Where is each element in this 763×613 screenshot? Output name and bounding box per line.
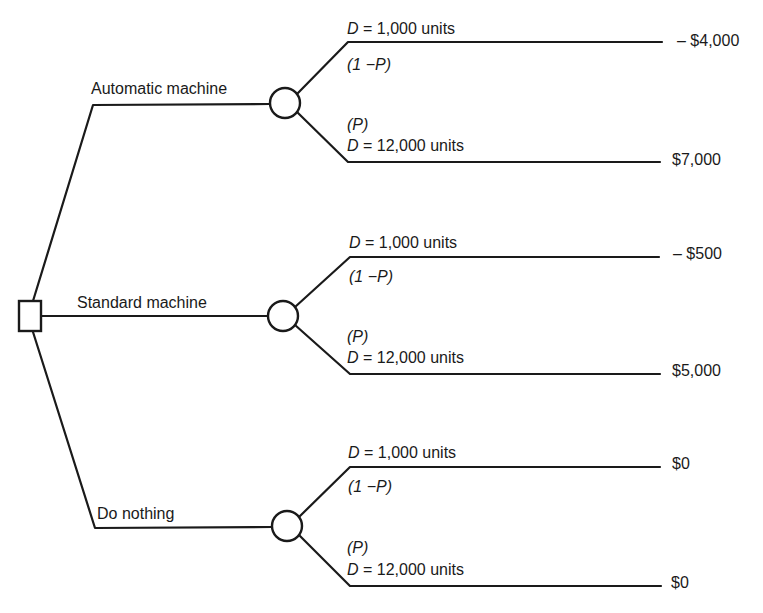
- payoff-label: – $500: [673, 245, 722, 263]
- demand-value: = 12,000 units: [363, 349, 464, 366]
- probability-label: (P): [347, 328, 368, 346]
- payoff-label: $5,000: [672, 362, 721, 380]
- demand-value: = 1,000 units: [363, 20, 455, 37]
- probability-label: (1 −P): [348, 478, 392, 496]
- outcome-demand-label: D = 1,000 units: [347, 20, 455, 38]
- demand-variable: D: [347, 561, 359, 578]
- demand-variable: D: [347, 349, 359, 366]
- payoff-label: – $4,000: [677, 32, 739, 50]
- chance-node-automatic-machine: [270, 88, 300, 118]
- label-automatic-machine: Automatic machine: [91, 80, 227, 98]
- chance-node-do-nothing: [272, 511, 302, 541]
- decision-node: [19, 301, 41, 331]
- probability-label: (P): [347, 539, 368, 557]
- chance-node-standard-machine: [268, 301, 298, 331]
- payoff-label: $0: [672, 455, 690, 473]
- outcome-demand-label: D = 1,000 units: [349, 234, 457, 252]
- probability-label: (1 −P): [349, 268, 393, 286]
- outcome-demand-label: D = 12,000 units: [347, 561, 464, 579]
- label-standard-machine: Standard machine: [77, 294, 207, 312]
- demand-value: = 1,000 units: [364, 444, 456, 461]
- probability-label: (P): [347, 116, 368, 134]
- probability-label: (1 −P): [347, 56, 391, 74]
- demand-value: = 12,000 units: [363, 137, 464, 154]
- payoff-label: $0: [671, 574, 689, 592]
- demand-variable: D: [349, 234, 361, 251]
- outcome-demand-label: D = 1,000 units: [348, 444, 456, 462]
- outcome-demand-label: D = 12,000 units: [347, 137, 464, 155]
- demand-value: = 1,000 units: [365, 234, 457, 251]
- demand-variable: D: [348, 444, 360, 461]
- payoff-label: $7,000: [672, 151, 721, 169]
- edge-automatic-machine: [33, 104, 270, 301]
- demand-variable: D: [347, 20, 359, 37]
- label-do-nothing: Do nothing: [97, 505, 174, 523]
- edge-do-nothing: [33, 332, 272, 528]
- demand-variable: D: [347, 137, 359, 154]
- outcome-demand-label: D = 12,000 units: [347, 349, 464, 367]
- demand-value: = 12,000 units: [363, 561, 464, 578]
